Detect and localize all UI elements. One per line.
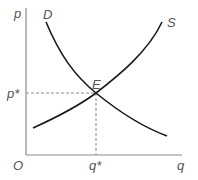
supply-demand-diagram: p D S E p* O q* q [0,0,198,180]
price-star-label: p* [6,86,20,101]
quantity-star-label: q* [89,158,102,173]
origin-label: O [13,158,23,173]
diagram-canvas: p D S E p* O q* q [0,0,198,180]
supply-label: S [167,15,176,30]
equilibrium-label: E [92,77,101,92]
demand-curve [46,22,167,136]
y-axis-label: p [13,6,21,21]
x-axis-label: q [177,158,185,173]
demand-label: D [43,7,52,22]
supply-curve [33,22,162,128]
